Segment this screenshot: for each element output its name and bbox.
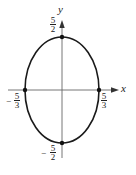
label-bottom-den: 2	[50, 153, 56, 161]
y-axis-arrow-icon	[59, 20, 64, 28]
label-top: 5 2	[50, 16, 56, 33]
label-bottom-num: 5	[50, 144, 56, 152]
label-left-sign: −	[6, 96, 11, 106]
label-top-den: 2	[50, 25, 56, 33]
point-top	[60, 35, 64, 39]
label-right: 5 3	[101, 92, 107, 109]
label-left: 5 3	[14, 92, 20, 109]
label-bottom: 5 2	[50, 144, 56, 161]
ellipse-plot	[0, 0, 136, 175]
label-right-num: 5	[101, 92, 107, 100]
label-left-den: 3	[14, 101, 20, 109]
label-bottom-sign: −	[41, 148, 46, 158]
x-axis-arrow-icon	[111, 87, 119, 92]
label-top-num: 5	[50, 16, 56, 24]
point-bottom	[60, 141, 64, 145]
y-axis-label: y	[58, 3, 63, 15]
point-left	[23, 88, 27, 92]
x-axis-label: x	[121, 82, 126, 94]
label-left-num: 5	[14, 92, 20, 100]
label-right-den: 3	[101, 101, 107, 109]
